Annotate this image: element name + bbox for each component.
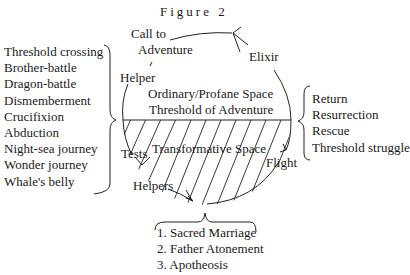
list-item: Return xyxy=(312,91,410,107)
arrowhead-icon xyxy=(233,27,248,52)
label-elixir: Elixir xyxy=(249,49,279,64)
list-item: Wonder journey xyxy=(4,157,103,173)
label-threshold: Threshold of Adventure xyxy=(149,102,273,117)
label-ordinary-space: Ordinary/Profane Space xyxy=(148,86,273,101)
label-transformative-space: Transformative Space xyxy=(152,141,266,156)
label-adventure: Adventure xyxy=(138,42,193,57)
list-item: Rescue xyxy=(312,123,410,139)
list-item: Dragon-battle xyxy=(4,76,103,92)
right-brace xyxy=(298,86,310,160)
list-item: Brother-battle xyxy=(4,60,103,76)
list-item: Resurrection xyxy=(312,107,410,123)
list-item: 3. Apotheosis xyxy=(157,257,264,273)
list-item: Dismemberment xyxy=(4,93,103,109)
right-list: Return Resurrection Rescue Threshold str… xyxy=(312,91,410,156)
list-item: Threshold struggle xyxy=(312,140,410,156)
list-item: 1. Sacred Marriage xyxy=(157,225,264,241)
list-item: Threshold crossing xyxy=(4,44,103,60)
list-item: Crucifixion xyxy=(4,109,103,125)
label-flight: Flight xyxy=(266,155,297,170)
top-arc xyxy=(170,33,232,40)
list-item: 2. Father Atonement xyxy=(157,241,264,257)
list-item: Abduction xyxy=(4,125,103,141)
list-item: Night-sea journey xyxy=(4,141,103,157)
figure-title: Figure 2 xyxy=(160,4,228,20)
left-list: Threshold crossing Brother-battle Dragon… xyxy=(4,44,103,190)
list-item: Whale's belly xyxy=(4,174,103,190)
label-tests: Tests xyxy=(121,146,148,161)
label-call-to: Call to xyxy=(131,26,166,41)
label-helper: Helper xyxy=(120,70,155,85)
bottom-list: 1. Sacred Marriage 2. Father Atonement 3… xyxy=(157,225,264,274)
label-helpers: Helpers xyxy=(133,178,173,193)
